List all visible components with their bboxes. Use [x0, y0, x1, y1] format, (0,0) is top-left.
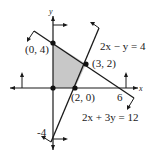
vertex-2-0: [72, 85, 77, 90]
vertex-label-3-2: (3, 2): [92, 57, 116, 70]
x-tick-label-6: 6: [117, 91, 123, 103]
x-axis-label: x: [138, 84, 143, 93]
y-nonneg-arrow-top: [53, 23, 68, 27]
vertex-origin: [50, 85, 55, 90]
vertex-label-0-4: (0, 4): [25, 43, 49, 56]
vertex-0-4: [50, 40, 55, 45]
x-nonneg-arrow-left: [20, 72, 24, 88]
y-nonneg-arrow-bottom: [53, 137, 68, 141]
vertex-label-2-0: (2, 0): [71, 91, 95, 104]
lp-diagram: y x (0, 4) (3, 2) (2, 0) 6 -4 2x − y = 4…: [0, 0, 148, 156]
equation-label-2x-minus-y: 2x − y = 4: [100, 40, 146, 52]
feasible-region: [53, 43, 86, 88]
y-axis-label: y: [48, 7, 53, 16]
x-nonneg-arrow-right: [124, 72, 128, 88]
y-tick-label-neg4: -4: [37, 126, 47, 138]
vertex-3-2: [83, 61, 88, 66]
equation-label-2x-plus-3y: 2x + 3y = 12: [82, 111, 138, 123]
